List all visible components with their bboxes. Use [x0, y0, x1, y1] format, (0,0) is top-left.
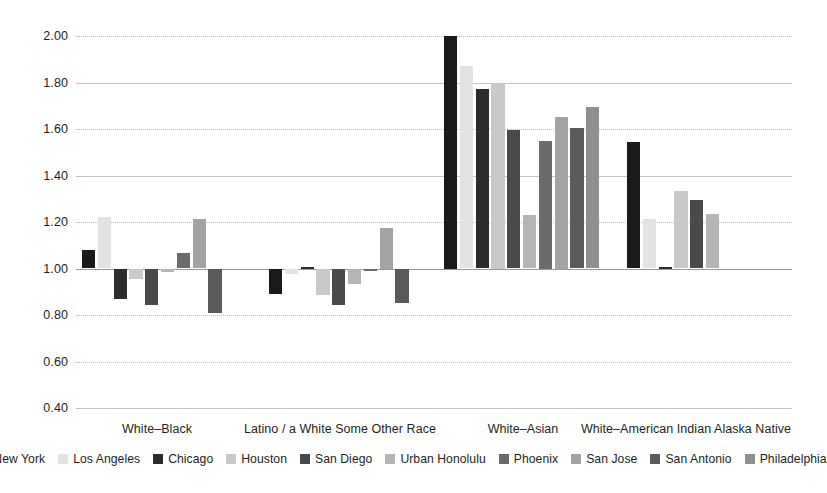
bar	[460, 66, 473, 268]
legend-swatch-icon	[571, 454, 581, 464]
bar	[285, 269, 298, 275]
legend-item[interactable]: San Diego	[300, 452, 372, 466]
legend-item[interactable]: Chicago	[153, 452, 213, 466]
y-axis-tick-label: 0.80	[8, 308, 68, 322]
legend-swatch-icon	[300, 454, 310, 464]
legend-label: Houston	[241, 452, 287, 466]
chart-legend: New YorkLos AngelesChicagoHoustonSan Die…	[0, 452, 805, 466]
legend-swatch-icon	[745, 454, 755, 464]
bar	[161, 269, 174, 272]
bar	[82, 250, 95, 269]
bar	[491, 83, 504, 269]
x-axis-category-label: White–Asian	[488, 422, 559, 436]
bar	[507, 130, 520, 268]
legend-label: Urban Honolulu	[400, 452, 485, 466]
bar	[555, 117, 568, 268]
legend-swatch-icon	[58, 454, 68, 464]
bar	[364, 269, 377, 271]
legend-item[interactable]: Los Angeles	[58, 452, 140, 466]
bar	[586, 107, 599, 269]
bar	[643, 219, 656, 269]
legend-item[interactable]: Urban Honolulu	[385, 452, 485, 466]
bar	[380, 228, 393, 269]
bar	[193, 219, 206, 269]
legend-swatch-icon	[499, 454, 509, 464]
bar	[627, 142, 640, 269]
legend-item[interactable]: New York	[0, 452, 45, 466]
bar	[269, 269, 282, 295]
x-axis-category-label: White–American Indian Alaska Native	[581, 422, 791, 436]
legend-swatch-icon	[153, 454, 163, 464]
bar	[659, 267, 672, 269]
gridline	[76, 408, 792, 409]
legend-label: San Antonio	[665, 452, 731, 466]
bar	[444, 36, 457, 269]
y-axis-tick-label: 0.60	[8, 355, 68, 369]
legend-item[interactable]: Houston	[226, 452, 287, 466]
bar	[706, 214, 719, 269]
bar	[523, 215, 536, 268]
bar	[301, 267, 314, 269]
bar	[129, 269, 142, 279]
bar	[98, 217, 111, 268]
bar	[145, 269, 158, 305]
x-axis-category-label: White–Black	[122, 422, 192, 436]
legend-label: San Jose	[586, 452, 637, 466]
legend-swatch-icon	[226, 454, 236, 464]
legend-label: San Diego	[315, 452, 372, 466]
plot-area	[76, 36, 792, 408]
legend-label: New York	[0, 452, 45, 466]
bar	[114, 269, 127, 299]
bar	[316, 269, 329, 296]
bar-group	[434, 36, 613, 408]
y-axis-tick-label: 1.40	[8, 169, 68, 183]
bar	[395, 269, 408, 304]
y-axis-tick-label: 1.80	[8, 76, 68, 90]
legend-label: Los Angeles	[73, 452, 140, 466]
legend-item[interactable]: Phoenix	[499, 452, 558, 466]
y-axis-tick-label: 1.00	[8, 262, 68, 276]
y-axis-tick-label: 2.00	[8, 29, 68, 43]
y-axis-tick-label: 1.60	[8, 122, 68, 136]
x-axis-category-label: Latino / a White Some Other Race	[244, 422, 436, 436]
bar	[539, 141, 552, 269]
legend-swatch-icon	[385, 454, 395, 464]
bar-group	[613, 36, 792, 408]
bar	[674, 191, 687, 269]
legend-swatch-icon	[650, 454, 660, 464]
bar	[570, 128, 583, 269]
bar	[177, 253, 190, 268]
legend-item[interactable]: San Antonio	[650, 452, 731, 466]
legend-item[interactable]: San Jose	[571, 452, 637, 466]
bar	[348, 269, 361, 284]
legend-item[interactable]: Philadelphia	[745, 452, 827, 466]
bar	[476, 89, 489, 268]
bar	[208, 269, 221, 313]
legend-label: Philadelphia	[760, 452, 827, 466]
bar-group	[76, 36, 255, 408]
bar-group	[255, 36, 434, 408]
legend-label: Chicago	[168, 452, 213, 466]
legend-label: Phoenix	[514, 452, 558, 466]
y-axis-tick-label: 1.20	[8, 215, 68, 229]
y-axis-tick-label: 0.40	[8, 401, 68, 415]
bar	[332, 269, 345, 305]
bar	[690, 200, 703, 269]
